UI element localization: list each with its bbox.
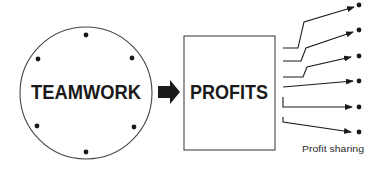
member-dot xyxy=(35,124,40,129)
recipient-dot xyxy=(357,3,362,8)
recipient-dot xyxy=(357,105,362,110)
teamwork-circle: TEAMWORK xyxy=(20,27,152,159)
member-dot xyxy=(84,33,89,38)
member-dot xyxy=(84,150,89,155)
profits-box: PROFITS xyxy=(184,36,275,150)
teamwork-profits-diagram: TEAMWORK PROFITS Profit sharing xyxy=(0,0,382,169)
branch-arrow xyxy=(283,97,352,107)
branch-arrow xyxy=(283,32,353,61)
teamwork-label: TEAMWORK xyxy=(31,80,141,103)
recipient-dot xyxy=(357,28,362,33)
member-dot xyxy=(132,125,137,130)
profit-sharing-caption: Profit sharing xyxy=(302,143,364,154)
recipient-dot xyxy=(357,54,362,59)
profit-distribution-branches xyxy=(283,7,354,132)
member-dot xyxy=(130,56,135,61)
branch-arrow xyxy=(283,57,351,77)
branch-arrow xyxy=(283,7,354,48)
recipient-dots xyxy=(357,3,362,135)
recipient-dot xyxy=(357,130,362,135)
recipient-dot xyxy=(357,79,362,84)
right-block-arrow-icon xyxy=(158,80,180,104)
branch-arrow xyxy=(283,81,353,87)
profits-label: PROFITS xyxy=(190,80,268,103)
branch-arrow xyxy=(283,117,351,132)
member-dot xyxy=(36,57,41,62)
